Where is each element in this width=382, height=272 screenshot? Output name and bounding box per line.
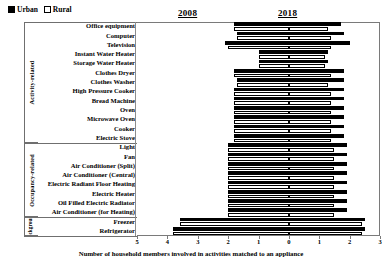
category-group-background: Background: [24, 217, 38, 236]
category-axis: Office equipmentComputerTelevisionInstan…: [24, 22, 137, 236]
x-tick-mark: [319, 236, 320, 239]
group-separator: [24, 217, 137, 218]
bar-urban-left: [228, 181, 289, 185]
bar-rural-right: [289, 101, 332, 105]
bar-urban-right: [289, 153, 347, 157]
bar-rural-left: [234, 129, 289, 133]
x-tick-mark: [259, 236, 260, 239]
bar-urban-right: [289, 115, 344, 119]
legend-item-urban: Urban: [8, 5, 38, 14]
bar-urban-left: [234, 69, 289, 73]
bar-urban-right: [289, 60, 328, 64]
x-tick-mark: [198, 236, 199, 239]
group-separator: [24, 22, 137, 23]
bar-rural-right: [289, 222, 362, 226]
bar-rural-left: [259, 55, 289, 59]
category-label: High Pressure Cooker: [73, 88, 135, 95]
bar-rural-right: [289, 185, 335, 189]
category-label: Electric Heater: [92, 191, 135, 198]
category-label: Television: [107, 42, 135, 49]
category-label: Clothes Washer: [91, 79, 135, 86]
category-label: Computer: [106, 33, 135, 40]
x-tick-mark: [380, 236, 381, 239]
bar-urban-left: [234, 97, 289, 101]
category-label: Instant Water Heater: [75, 51, 135, 58]
bar-urban-right: [289, 69, 344, 73]
x-tick-mark: [137, 236, 138, 239]
bar-urban-right: [289, 32, 344, 36]
bar-rural-left: [173, 232, 288, 236]
bar-urban-left: [228, 199, 289, 203]
x-tick-mark: [289, 236, 290, 239]
bar-rural-left: [228, 176, 289, 180]
bar-rural-left: [234, 92, 289, 96]
legend-label-rural: Rural: [53, 5, 72, 14]
bar-rural-left: [228, 195, 289, 199]
bar-rural-right: [289, 195, 335, 199]
x-tick-label: 4: [166, 238, 169, 245]
x-tick-label: 1: [257, 238, 260, 245]
bar-urban-right: [289, 171, 347, 175]
bar-rural-left: [228, 46, 289, 50]
bar-rural-left: [237, 83, 289, 87]
bar-rural-left: [237, 36, 289, 40]
bar-rural-left: [228, 148, 289, 152]
category-label: Air Conditioner (for Heating): [52, 209, 135, 216]
bar-rural-left: [234, 111, 289, 115]
category-label: Electric Stove: [96, 135, 135, 142]
bar-rural-right: [289, 64, 325, 68]
bar-rural-left: [228, 204, 289, 208]
bar-urban-left: [237, 78, 289, 82]
category-label: Fan: [124, 154, 135, 161]
bar-urban-right: [289, 218, 365, 222]
group-separator: [24, 236, 137, 237]
chart-legend: Urban Rural: [8, 5, 72, 14]
bar-urban-right: [289, 125, 344, 129]
x-tick-mark: [350, 236, 351, 239]
bar-rural-right: [289, 111, 332, 115]
category-label: Office equipment: [86, 23, 135, 30]
bar-rural-right: [289, 232, 362, 236]
bar-rural-right: [289, 46, 332, 50]
bar-urban-left: [234, 88, 289, 92]
x-tick-mark: [228, 236, 229, 239]
x-tick-mark: [167, 236, 168, 239]
bar-rural-right: [289, 176, 335, 180]
category-label: Air Conditioner (Central): [62, 172, 135, 179]
bar-urban-left: [228, 171, 289, 175]
category-group-activity-related: Activity-related: [24, 22, 38, 143]
chart-container: Urban Rural 2008 2018 Office equipmentCo…: [0, 0, 382, 272]
bar-rural-right: [289, 129, 332, 133]
category-group-label: Activity-related: [28, 61, 35, 105]
bar-urban-left: [237, 32, 289, 36]
x-tick-label: 2: [348, 238, 351, 245]
bar-urban-left: [259, 50, 289, 54]
legend-item-rural: Rural: [44, 5, 72, 14]
bar-rural-left: [228, 213, 289, 217]
bar-rural-right: [289, 213, 335, 217]
bar-rural-left: [228, 157, 289, 161]
bar-rural-left: [180, 222, 289, 226]
bar-urban-right: [289, 97, 344, 101]
bar-urban-right: [289, 88, 344, 92]
bar-urban-right: [289, 50, 328, 54]
bar-urban-right: [289, 106, 344, 110]
category-label: Bread Machine: [92, 98, 135, 105]
bar-urban-left: [259, 60, 289, 64]
bar-urban-left: [234, 115, 289, 119]
x-tick-label: 0: [287, 238, 290, 245]
x-tick-label: 1: [318, 238, 321, 245]
bar-rural-left: [234, 101, 289, 105]
category-label: Oven: [120, 107, 135, 114]
bar-urban-left: [228, 208, 289, 212]
bar-urban-left: [228, 143, 289, 147]
bar-rural-right: [289, 74, 332, 78]
x-axis-ticks: 543210123: [137, 238, 380, 248]
bar-rural-right: [289, 167, 335, 171]
bar-rural-right: [289, 36, 332, 40]
bar-urban-right: [289, 181, 347, 185]
bar-urban-left: [225, 41, 289, 45]
bar-rural-left: [234, 139, 289, 143]
bar-urban-right: [289, 162, 347, 166]
zero-gridline: [135, 22, 136, 236]
